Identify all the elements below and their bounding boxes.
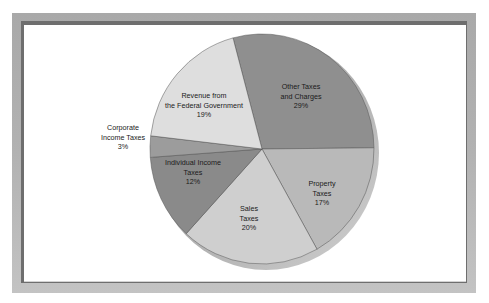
slice-label: SalesTaxes20% bbox=[240, 204, 259, 232]
pie-chart: Other Taxesand Charges29%PropertyTaxes17… bbox=[0, 0, 489, 303]
slice-label: CorporateIncome Taxes3% bbox=[101, 123, 146, 151]
pie-slices bbox=[150, 34, 374, 264]
